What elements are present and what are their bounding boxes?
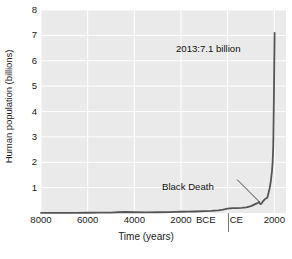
y-axis-tick-label: 2 (18, 157, 37, 167)
x-axis-title: Time (years) (0, 231, 292, 242)
annotation-peak-population: 2013:7.1 billion (176, 44, 241, 54)
annotation-black-death: Black Death (162, 182, 214, 192)
y-axis-tick-label: 8 (18, 5, 37, 15)
y-axis-title-text: Human population (billions) (4, 50, 15, 164)
x-axis-tick-labels: 8000600040002000BCECE2000 (0, 214, 292, 230)
y-axis-tick-label: 4 (18, 107, 37, 117)
x-axis-tick-label: 6000 (77, 215, 98, 225)
y-axis-title: Human population (billions) (0, 0, 18, 213)
x-axis-tick-label-ce: CE (230, 215, 243, 225)
bce-ce-divider (228, 213, 229, 232)
y-axis-tick-label: 7 (18, 31, 37, 41)
y-axis-tick-label: 1 (18, 183, 37, 193)
y-axis-tick-label: 5 (18, 81, 37, 91)
x-axis-tick-label: 4000 (124, 215, 145, 225)
y-axis-tick-label: 6 (18, 56, 37, 66)
x-axis-tick-label: 2000 (170, 215, 191, 225)
x-axis-tick-label: 8000 (30, 215, 51, 225)
population-chart-figure: Human population (billions) 87654321 201… (0, 0, 292, 259)
x-axis-tick-label: 2000 (264, 215, 285, 225)
y-axis-tick-label: 3 (18, 132, 37, 142)
x-axis-tick-label-bce: BCE (196, 215, 216, 225)
